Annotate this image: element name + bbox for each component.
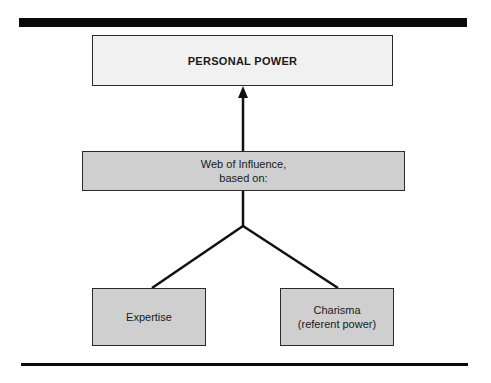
expertise-label: Expertise (126, 310, 172, 324)
personal-power-node: PERSONAL POWER (92, 35, 393, 86)
expertise-node: Expertise (92, 288, 206, 346)
referent-power-label: (referent power) (298, 317, 376, 331)
bottom-rule (21, 363, 468, 366)
arrow-up-icon (238, 86, 248, 151)
branch-line-expertise (152, 226, 243, 288)
charisma-label: Charisma (313, 303, 360, 317)
web-of-influence-line1: Web of Influence, (201, 157, 286, 171)
web-of-influence-node: Web of Influence, based on: (82, 151, 405, 191)
charisma-node: Charisma (referent power) (280, 288, 394, 346)
web-of-influence-line2: based on: (219, 171, 267, 185)
personal-power-label: PERSONAL POWER (188, 55, 298, 67)
branch-line-charisma (243, 226, 338, 288)
